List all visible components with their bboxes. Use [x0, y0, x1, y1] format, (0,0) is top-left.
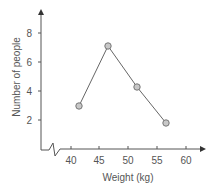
frequency-polygon-chart: 8 6 4 2 40 45 50 55 60 Weight (kg) Numbe… — [0, 0, 217, 191]
chart-canvas: 8 6 4 2 40 45 50 55 60 Weight (kg) Numbe… — [0, 0, 217, 191]
x-tick-label: 55 — [151, 155, 163, 166]
data-point — [134, 84, 140, 90]
x-axis-break — [41, 143, 62, 156]
data-point — [163, 120, 169, 126]
x-axis-title: Weight (kg) — [103, 172, 154, 183]
data-point — [76, 103, 82, 109]
data-line — [79, 46, 166, 123]
x-tick-label: 50 — [122, 155, 134, 166]
x-tick-label: 60 — [180, 155, 192, 166]
data-point — [105, 43, 111, 49]
y-tick-label: 6 — [26, 57, 32, 68]
y-tick-labels: 8 6 4 2 — [26, 28, 32, 126]
y-tick-label: 2 — [26, 115, 32, 126]
y-axis-title: Number of people — [11, 37, 22, 117]
x-tick-labels: 40 45 50 55 60 — [65, 155, 192, 166]
y-tick-label: 8 — [26, 28, 32, 39]
x-tick-label: 45 — [93, 155, 105, 166]
x-tick-label: 40 — [65, 155, 77, 166]
y-tick-label: 4 — [26, 86, 32, 97]
